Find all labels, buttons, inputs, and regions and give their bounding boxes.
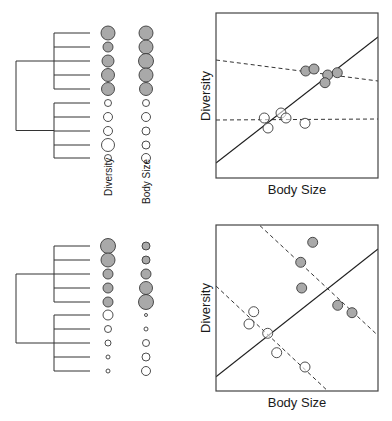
diversity-circle <box>103 42 113 52</box>
diversity-circle <box>102 83 115 96</box>
body-size-circle <box>139 295 154 310</box>
phylogeny-tree-top <box>16 33 90 158</box>
diversity-circle <box>102 139 115 152</box>
group-regression-line <box>216 119 378 120</box>
filled-data-point <box>347 308 357 318</box>
body-size-circle <box>142 113 151 122</box>
open-data-point <box>263 123 273 133</box>
diversity-circle <box>104 127 113 136</box>
body-size-circle <box>139 68 153 82</box>
open-data-point <box>300 362 310 372</box>
y-axis-label-bottom: Diversity <box>198 283 213 333</box>
diversity-circle <box>102 69 115 82</box>
diversity-circle <box>105 326 112 333</box>
filled-data-point <box>332 68 342 78</box>
body-size-circle <box>143 100 150 107</box>
body-size-circle <box>142 127 150 135</box>
trait-circles-top <box>101 26 154 163</box>
plot-area <box>216 37 378 163</box>
body-size-circle <box>141 269 151 279</box>
diversity-circle <box>103 269 113 279</box>
diversity-circle <box>103 297 113 307</box>
group-regression-line <box>216 286 326 389</box>
body-size-circle <box>140 83 153 96</box>
body-size-circle <box>145 314 148 317</box>
body-size-circle <box>142 242 150 250</box>
body-size-circle <box>139 26 153 40</box>
diversity-circle <box>106 355 110 359</box>
filled-data-point <box>320 78 330 88</box>
body-size-circle <box>143 340 150 347</box>
group-regression-line <box>260 226 377 335</box>
open-data-point <box>259 113 269 123</box>
plot-area <box>216 226 378 390</box>
bottom-panel: Body Size Diversity <box>16 225 378 410</box>
group-regression-line <box>216 60 378 81</box>
diversity-circle <box>101 253 115 267</box>
body-size-circle <box>139 54 154 69</box>
y-axis-label-top: Diversity <box>198 71 213 121</box>
diversity-circle <box>101 26 115 40</box>
phylogeny-tree-bottom <box>16 246 90 371</box>
body-size-circle <box>139 40 153 54</box>
diversity-circle <box>104 113 113 122</box>
diversity-circle <box>103 283 113 293</box>
plot-frame <box>216 13 378 178</box>
filled-data-point <box>309 64 319 74</box>
filled-data-point <box>333 300 343 310</box>
body-size-circle <box>142 367 151 376</box>
diversity-circle <box>101 239 116 254</box>
diversity-circle <box>106 369 110 373</box>
filled-data-point <box>296 257 306 267</box>
diversity-circle <box>105 340 111 346</box>
trait-circles-bottom <box>101 239 154 376</box>
diversity-circle <box>103 310 113 320</box>
open-data-point <box>263 328 273 338</box>
body-size-column-label-top: Body Size <box>141 159 152 204</box>
body-size-circle <box>142 256 150 264</box>
body-size-circle <box>140 282 153 295</box>
open-data-point <box>272 348 282 358</box>
body-size-circle <box>142 141 150 149</box>
body-size-circle <box>144 327 148 331</box>
open-data-point <box>281 113 291 123</box>
x-axis-label-top: Body Size <box>268 182 327 197</box>
filled-data-point <box>308 237 318 247</box>
open-data-point <box>300 118 310 128</box>
body-size-circle <box>142 353 150 361</box>
overall-regression-line <box>216 37 378 163</box>
scatter-plot-top <box>216 13 378 178</box>
diversity-column-label-top: Diversity <box>103 158 114 196</box>
x-axis-label-bottom: Body Size <box>268 395 327 410</box>
diversity-circle <box>105 100 112 107</box>
filled-data-point <box>297 283 307 293</box>
open-data-point <box>244 319 254 329</box>
diversity-circle <box>102 55 114 67</box>
figure: Diversity Body Size Body Size Diversity … <box>0 0 392 421</box>
top-panel: Diversity Body Size Body Size Diversity <box>16 13 378 204</box>
scatter-plot-bottom <box>216 225 378 391</box>
open-data-point <box>249 307 259 317</box>
